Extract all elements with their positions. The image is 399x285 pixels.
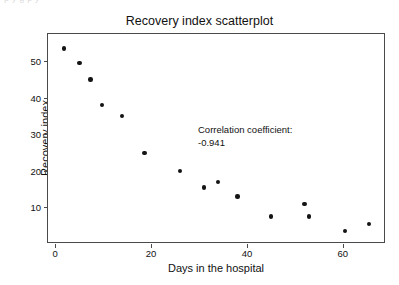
x-axis-tick-label: 0	[53, 248, 58, 259]
x-axis-title: Days in the hospital	[47, 262, 385, 274]
scatter-point	[302, 202, 306, 206]
scatter-point	[142, 151, 146, 155]
scatter-point	[343, 229, 347, 233]
y-axis-tick-label: 40	[30, 92, 41, 103]
y-axis-tick-label: 10	[30, 202, 41, 213]
x-axis-tick-label: 60	[338, 248, 349, 259]
scatter-point	[235, 194, 239, 198]
clipped-top-text: p y g p y	[4, 0, 399, 3]
correlation-annotation-label: Correlation coefficient:	[198, 124, 292, 137]
correlation-annotation-value: -0.941	[198, 137, 292, 150]
scatterplot-figure: p y g p y Recovery index scatterplot Rec…	[0, 0, 399, 285]
scatter-point	[178, 169, 182, 173]
scatter-point	[100, 103, 104, 107]
clipped-top-text-artifact: p y g p y	[0, 0, 399, 5]
y-axis-tick-label: 20	[30, 165, 41, 176]
x-axis-tick-label: 40	[242, 248, 253, 259]
correlation-annotation: Correlation coefficient: -0.941	[198, 124, 292, 149]
y-axis-tick-label: 50	[30, 56, 41, 67]
scatter-point	[120, 114, 124, 118]
y-axis-tick-label: 30	[30, 129, 41, 140]
scatter-point	[216, 180, 220, 184]
scatter-point	[62, 46, 66, 50]
x-axis-tick-label: 20	[146, 248, 157, 259]
scatter-point	[307, 214, 311, 218]
scatter-point	[367, 222, 371, 226]
scatter-point	[88, 77, 92, 81]
scatter-point	[202, 185, 206, 189]
scatter-point	[269, 214, 273, 218]
scatter-point	[77, 61, 81, 65]
chart-title: Recovery index scatterplot	[0, 14, 399, 28]
